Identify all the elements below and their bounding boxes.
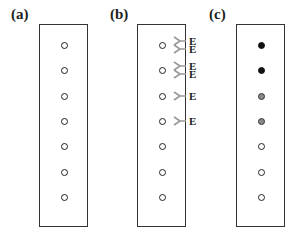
- spot-open: [258, 143, 265, 150]
- spot-open: [159, 93, 166, 100]
- spot-open: [159, 118, 166, 125]
- antibody-y-icon: [173, 91, 187, 101]
- spot-open: [61, 93, 68, 100]
- panel-b-label: (b): [110, 6, 128, 23]
- spot-open: [159, 67, 166, 74]
- spot-filled: [258, 67, 265, 74]
- spot-open: [61, 42, 68, 49]
- spot-open: [159, 143, 166, 150]
- panel-a-label: (a): [11, 6, 29, 23]
- spot-open: [61, 67, 68, 74]
- spot-open: [159, 194, 166, 201]
- spot-gray: [258, 93, 265, 100]
- spot-open: [258, 194, 265, 201]
- antibody-y-icon: [173, 44, 187, 54]
- spot-open: [61, 118, 68, 125]
- enzyme-label: E: [189, 44, 196, 55]
- antibody-y-icon: [173, 116, 187, 126]
- spot-open: [159, 42, 166, 49]
- antibody-y-icon: [173, 69, 187, 79]
- spot-open: [61, 169, 68, 176]
- spot-open: [159, 169, 166, 176]
- panel-c-label: (c): [209, 6, 226, 23]
- enzyme-label: E: [189, 69, 196, 80]
- enzyme-label: E: [189, 91, 196, 102]
- spot-open: [61, 143, 68, 150]
- spot-gray: [258, 118, 265, 125]
- enzyme-label: E: [189, 116, 196, 127]
- spot-filled: [258, 42, 265, 49]
- spot-open: [258, 169, 265, 176]
- spot-open: [61, 194, 68, 201]
